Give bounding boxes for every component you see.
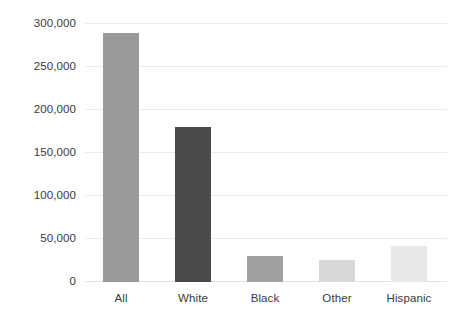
bar-group-hispanic[interactable]: Hispanic	[373, 24, 445, 282]
bar-group-other[interactable]: Other	[301, 24, 373, 282]
y-axis-tick-label: 200,000	[34, 103, 76, 115]
x-axis-tick-label-other: Other	[301, 292, 373, 304]
x-axis-tick-label-black: Black	[229, 292, 301, 304]
bar-group-white[interactable]: White	[157, 24, 229, 282]
x-axis-tick-label-hispanic: Hispanic	[373, 292, 445, 304]
bar-chart: 050,000100,000150,000200,000250,000300,0…	[0, 0, 455, 329]
y-axis-tick-label: 150,000	[34, 146, 76, 158]
x-axis-tick-label-all: All	[85, 292, 157, 304]
y-axis-tick-label: 250,000	[34, 60, 76, 72]
bars-layer: AllWhiteBlackOtherHispanic	[85, 24, 447, 282]
bar-other[interactable]	[319, 260, 355, 282]
bar-group-black[interactable]: Black	[229, 24, 301, 282]
bar-black[interactable]	[247, 256, 283, 282]
bar-all[interactable]	[103, 33, 139, 282]
bar-group-all[interactable]: All	[85, 24, 157, 282]
x-axis-tick-label-white: White	[157, 292, 229, 304]
bar-hispanic[interactable]	[391, 246, 427, 282]
y-axis-tick-label: 0	[70, 275, 77, 287]
y-axis-tick-label: 300,000	[34, 17, 76, 29]
bar-white[interactable]	[175, 127, 211, 282]
plot-area: 050,000100,000150,000200,000250,000300,0…	[85, 24, 447, 282]
y-axis-tick-label: 100,000	[34, 189, 76, 201]
y-axis-tick-label: 50,000	[40, 232, 76, 244]
